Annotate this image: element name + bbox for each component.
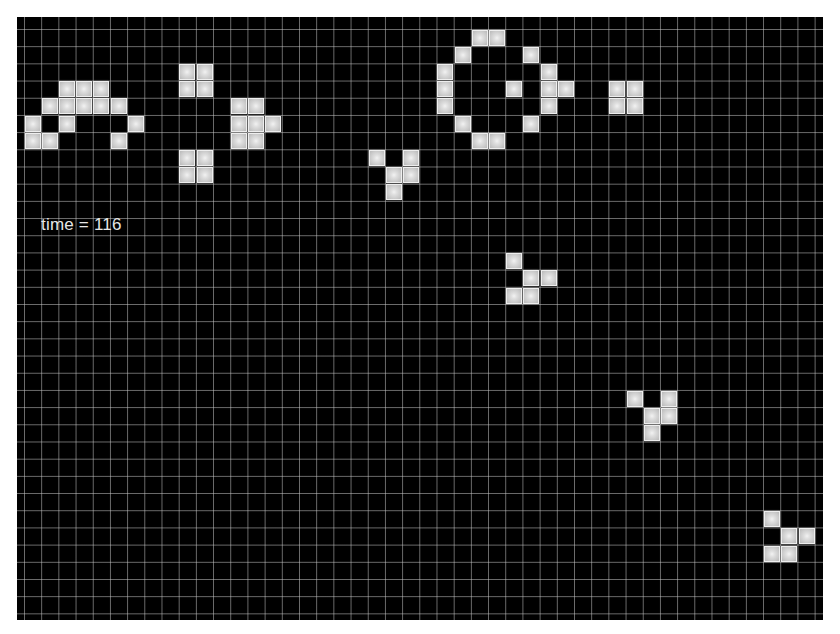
live-cell[interactable] [25, 116, 41, 132]
live-cell[interactable] [437, 98, 453, 114]
live-cell[interactable] [541, 81, 557, 97]
live-cell[interactable] [111, 133, 127, 149]
live-cell[interactable] [506, 81, 522, 97]
live-cell[interactable] [558, 81, 574, 97]
live-cell[interactable] [197, 64, 213, 80]
live-cell[interactable] [42, 133, 58, 149]
live-cell[interactable] [59, 98, 75, 114]
grid-lines [17, 17, 823, 620]
live-cell[interactable] [661, 391, 677, 407]
live-cell[interactable] [248, 98, 264, 114]
live-cell[interactable] [231, 116, 247, 132]
live-cell[interactable] [197, 150, 213, 166]
live-cell[interactable] [59, 81, 75, 97]
live-cell[interactable] [455, 47, 471, 63]
live-cell[interactable] [437, 64, 453, 80]
live-cell[interactable] [523, 47, 539, 63]
live-cell[interactable] [265, 116, 281, 132]
live-cell[interactable] [523, 288, 539, 304]
life-board[interactable]: time = 116 [17, 17, 823, 620]
live-cell[interactable] [197, 81, 213, 97]
live-cell[interactable] [541, 98, 557, 114]
live-cell[interactable] [93, 81, 109, 97]
live-cell[interactable] [179, 81, 195, 97]
live-cell[interactable] [781, 546, 797, 562]
live-cell[interactable] [128, 116, 144, 132]
live-cell[interactable] [231, 133, 247, 149]
live-cell[interactable] [472, 133, 488, 149]
live-cell[interactable] [179, 150, 195, 166]
live-cell[interactable] [179, 64, 195, 80]
live-cell[interactable] [248, 116, 264, 132]
live-cell[interactable] [523, 116, 539, 132]
live-cell[interactable] [386, 167, 402, 183]
live-cell[interactable] [541, 64, 557, 80]
live-cell[interactable] [661, 408, 677, 424]
live-cell[interactable] [76, 98, 92, 114]
live-cell[interactable] [386, 184, 402, 200]
live-cell[interactable] [489, 30, 505, 46]
live-cell[interactable] [111, 98, 127, 114]
live-cell[interactable] [609, 81, 625, 97]
live-cell[interactable] [369, 150, 385, 166]
live-cell[interactable] [764, 511, 780, 527]
live-cell[interactable] [523, 270, 539, 286]
live-cell[interactable] [42, 98, 58, 114]
live-cell[interactable] [627, 81, 643, 97]
live-cell[interactable] [179, 167, 195, 183]
live-cell[interactable] [59, 116, 75, 132]
live-cell[interactable] [248, 133, 264, 149]
live-cell[interactable] [609, 98, 625, 114]
live-cell[interactable] [231, 98, 247, 114]
live-cell[interactable] [627, 98, 643, 114]
time-counter: time = 116 [41, 215, 122, 235]
live-cell[interactable] [93, 98, 109, 114]
live-cell[interactable] [781, 528, 797, 544]
live-cell[interactable] [437, 81, 453, 97]
live-cell[interactable] [403, 167, 419, 183]
live-cell[interactable] [506, 253, 522, 269]
live-cell[interactable] [25, 133, 41, 149]
live-cell[interactable] [455, 116, 471, 132]
live-cell[interactable] [76, 81, 92, 97]
live-cell[interactable] [506, 288, 522, 304]
live-cell[interactable] [799, 528, 815, 544]
live-cell[interactable] [472, 30, 488, 46]
live-cell[interactable] [764, 546, 780, 562]
live-cell[interactable] [644, 408, 660, 424]
live-cell[interactable] [197, 167, 213, 183]
live-cell[interactable] [541, 270, 557, 286]
live-cell[interactable] [644, 425, 660, 441]
live-cell[interactable] [627, 391, 643, 407]
live-cell[interactable] [489, 133, 505, 149]
live-cell[interactable] [403, 150, 419, 166]
